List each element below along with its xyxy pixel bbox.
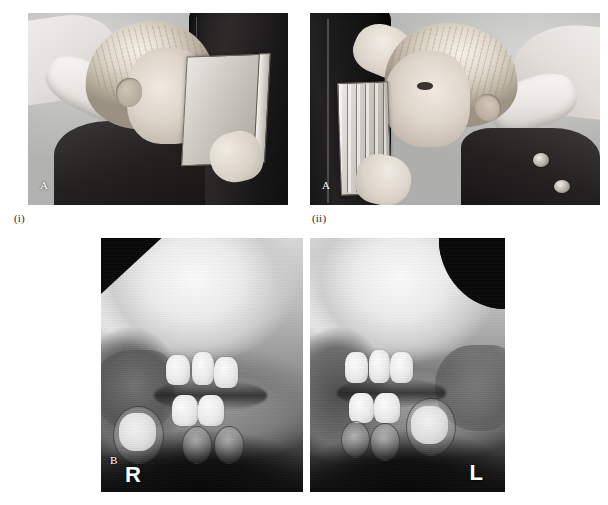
radiograph-left-side: L	[310, 238, 505, 492]
child-ear	[475, 94, 501, 121]
headrest-seam	[327, 19, 329, 203]
tooth-follicle-outline	[406, 398, 457, 456]
developing-tooth	[369, 350, 390, 383]
tooth-follicle-outline	[113, 406, 163, 464]
side-marker-left: L	[470, 462, 483, 484]
figure-sheet: A (i) A (ii)	[0, 0, 608, 505]
caption-photo-ii: (ii)	[312, 212, 326, 224]
radiograph-panel-b: B R L	[101, 238, 505, 492]
developing-tooth	[345, 352, 368, 382]
developing-tooth	[390, 352, 413, 382]
developing-tooth	[349, 393, 374, 423]
coat-button	[554, 180, 570, 193]
photo-panel-ii: A	[310, 13, 600, 205]
developing-tooth	[214, 357, 238, 387]
developing-tooth	[198, 395, 224, 425]
tooth-follicle-outline	[182, 426, 212, 464]
radiograph-right-side: B R	[101, 238, 303, 492]
tooth-follicle-outline	[214, 426, 244, 464]
caption-photo-i: (i)	[14, 212, 25, 224]
child-face-profile	[383, 51, 470, 147]
child-eye	[417, 82, 433, 90]
child-torso	[461, 128, 600, 205]
photo-i-content	[28, 13, 288, 205]
photo-ii-content	[310, 13, 600, 205]
coat-button	[533, 153, 549, 166]
photo-panel-i: A	[28, 13, 288, 205]
panel-letter-a-ii: A	[322, 179, 330, 191]
side-marker-right: R	[125, 464, 141, 486]
developing-tooth	[192, 352, 214, 385]
developing-tooth	[166, 355, 190, 385]
developing-tooth	[172, 395, 198, 425]
tooth-follicle-outline	[370, 423, 399, 461]
panel-letter-b: B	[110, 454, 118, 466]
developing-tooth	[374, 393, 399, 423]
panel-letter-a-i: A	[40, 179, 48, 191]
